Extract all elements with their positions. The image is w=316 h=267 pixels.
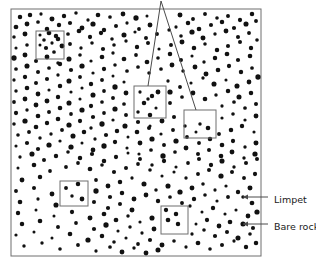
- limpet-dot: [197, 141, 201, 145]
- limpet-dot: [226, 44, 230, 48]
- limpet-dot: [69, 68, 73, 72]
- limpet-dot: [36, 70, 40, 74]
- limpet-dot: [127, 136, 130, 139]
- limpet-dot: [34, 125, 39, 130]
- limpet-dot: [78, 97, 81, 100]
- limpet-dot: [108, 245, 112, 249]
- limpet-dot: [103, 222, 108, 227]
- limpet-dot: [249, 46, 253, 50]
- limpet-dot: [120, 250, 125, 255]
- limpet-dot: [48, 169, 52, 173]
- limpet-dot: [90, 152, 94, 156]
- limpet-dot: [193, 65, 198, 70]
- limpet-dot: [68, 21, 72, 25]
- limpet-dot: [92, 227, 96, 231]
- limpet-dot: [254, 241, 258, 245]
- limpet-dot: [201, 36, 206, 41]
- limpet-dot: [215, 48, 219, 52]
- limpet-dot: [42, 158, 46, 162]
- limpet-dot: [203, 12, 207, 16]
- limpet-dot: [64, 186, 68, 190]
- limpet-dot: [38, 219, 43, 224]
- limpet-dot: [224, 29, 229, 34]
- limpet-dot: [136, 242, 140, 246]
- limpet-dot: [12, 78, 15, 81]
- limpet-dot: [70, 194, 73, 197]
- limpet-dot: [111, 51, 114, 54]
- limpet-dot: [38, 43, 41, 46]
- limpet-dot: [254, 209, 259, 214]
- limpet-dot: [136, 65, 140, 69]
- limpet-dot: [243, 106, 247, 110]
- limpet-dot: [66, 100, 71, 105]
- limpet-dot: [114, 218, 119, 223]
- limpet-dot: [38, 175, 43, 180]
- limpet-dot: [218, 173, 223, 178]
- limpet-dot: [56, 117, 61, 122]
- limpet-dot: [16, 133, 20, 137]
- limpet-dot: [111, 96, 115, 100]
- limpet-dot: [34, 103, 39, 108]
- limpet-dot: [91, 71, 94, 74]
- limpet-dot: [125, 69, 129, 73]
- limpet-dot: [50, 41, 53, 44]
- limpet-dot: [156, 56, 160, 60]
- limpet-dot: [195, 223, 198, 226]
- limpet-dot: [248, 232, 252, 236]
- limpet-dot: [137, 27, 141, 31]
- limpet-dot: [101, 47, 105, 51]
- limpet-dot: [69, 112, 73, 116]
- limpet-dot: [106, 184, 111, 189]
- limpet-dot: [16, 211, 20, 215]
- limpet-dot: [130, 208, 135, 213]
- limpet-dot: [14, 144, 17, 147]
- limpet-dot: [125, 146, 128, 149]
- limpet-dot: [118, 202, 122, 206]
- limpet-dot: [254, 19, 258, 23]
- limpet-dot: [243, 145, 246, 148]
- limpet-dot: [138, 141, 143, 146]
- limpet-dot: [122, 102, 126, 106]
- limpet-dot: [14, 189, 18, 193]
- limpet-dot: [100, 55, 105, 60]
- limpet-dot: [150, 94, 154, 98]
- limpet-dot: [184, 146, 189, 151]
- limpet-dot: [220, 143, 225, 148]
- limpet-dot: [238, 18, 242, 22]
- limpet-dot: [101, 143, 106, 148]
- limpet-dot: [120, 191, 125, 196]
- limpet-dot: [116, 229, 119, 232]
- limpet-dot: [234, 208, 237, 211]
- limpet-dot: [215, 16, 219, 20]
- limpet-dot: [236, 58, 240, 62]
- limpet-dot: [16, 166, 19, 169]
- limpet-dot: [20, 178, 25, 183]
- limpet-dot: [118, 180, 123, 185]
- limpet-dot: [113, 63, 117, 67]
- limpet-dot: [227, 64, 231, 68]
- limpet-dot: [14, 233, 17, 236]
- limpet-dot: [121, 12, 126, 17]
- limpet-dot: [18, 200, 23, 205]
- limpet-dot: [148, 23, 153, 28]
- limpet-dot: [197, 27, 202, 32]
- limpet-dot: [45, 99, 50, 104]
- limpet-dot: [25, 43, 29, 47]
- limpet-dot: [66, 56, 71, 61]
- limpet-dot: [206, 126, 211, 131]
- limpet-quadrat-figure: LimpetBare rock: [0, 0, 316, 267]
- limpet-dot: [137, 152, 140, 155]
- limpet-dot: [114, 24, 118, 28]
- limpet-dot: [226, 89, 230, 93]
- limpet-dot: [25, 108, 28, 111]
- limpet-dot: [93, 137, 96, 140]
- limpet-dot: [128, 225, 131, 228]
- limpet-dot: [194, 130, 197, 133]
- limpet-dot: [156, 90, 161, 95]
- limpet-dot: [112, 84, 117, 89]
- limpet-dot: [14, 46, 17, 49]
- limpet-dot: [29, 151, 34, 156]
- limpet-dot: [89, 82, 93, 86]
- limpet-dot: [38, 136, 41, 139]
- limpet-dot: [244, 245, 248, 249]
